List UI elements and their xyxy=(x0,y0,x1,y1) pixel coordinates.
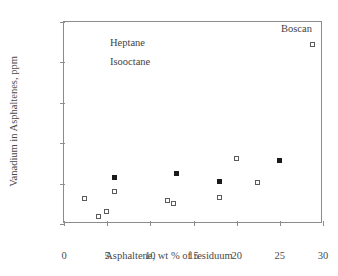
x-tick-mark xyxy=(107,221,108,226)
x-tick-label: 10 xyxy=(135,250,165,261)
x-tick-mark xyxy=(237,221,238,226)
data-point-heptane xyxy=(112,175,117,180)
x-tick-label: 25 xyxy=(265,250,295,261)
data-point-isooctane xyxy=(234,156,239,161)
plot-area: 010002000300040005000 051015202530 xyxy=(63,21,322,223)
x-tick-mark xyxy=(64,221,65,226)
data-point-isooctane xyxy=(255,180,260,185)
annotation-isooctane: Isooctane xyxy=(110,56,150,68)
x-tick-mark xyxy=(280,221,281,226)
x-tick-label: 15 xyxy=(179,250,209,261)
x-tick-mark xyxy=(150,221,151,226)
data-point-heptane xyxy=(174,171,179,176)
data-point-heptane xyxy=(277,158,282,163)
data-point-isooctane xyxy=(96,214,101,219)
y-axis-title: Vanadium in Asphaltenes, ppm xyxy=(8,47,19,197)
data-point-isooctane xyxy=(104,209,109,214)
annotation-boscan: Boscan xyxy=(281,23,312,35)
y-tick-mark xyxy=(60,103,65,104)
y-tick-mark xyxy=(60,143,65,144)
x-tick-label: 30 xyxy=(308,250,338,261)
y-tick-mark xyxy=(60,62,65,63)
data-point-isooctane xyxy=(165,198,170,203)
x-tick-label: 20 xyxy=(222,250,252,261)
y-tick-mark xyxy=(60,22,65,23)
data-point-isooctane xyxy=(217,195,222,200)
data-point-heptane xyxy=(217,179,222,184)
y-tick-mark xyxy=(60,184,65,185)
data-point-isooctane xyxy=(310,42,315,47)
data-point-isooctane xyxy=(112,189,117,194)
x-tick-label: 0 xyxy=(49,250,79,261)
x-tick-label: 5 xyxy=(92,250,122,261)
data-point-isooctane xyxy=(82,196,87,201)
data-point-isooctane xyxy=(171,201,176,206)
annotation-heptane: Heptane xyxy=(110,37,145,49)
x-tick-mark xyxy=(323,221,324,226)
x-tick-mark xyxy=(194,221,195,226)
scatter-chart-figure: Vanadium in Asphaltenes, ppm Asphaltene,… xyxy=(0,0,338,276)
